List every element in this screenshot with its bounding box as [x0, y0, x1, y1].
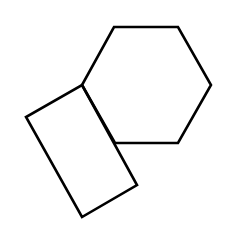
hexagon-rectangle-diagram: [0, 0, 228, 248]
diagram-canvas: [0, 0, 228, 248]
hexagon-shape: [82, 27, 211, 143]
rectangle-shape: [26, 85, 137, 217]
